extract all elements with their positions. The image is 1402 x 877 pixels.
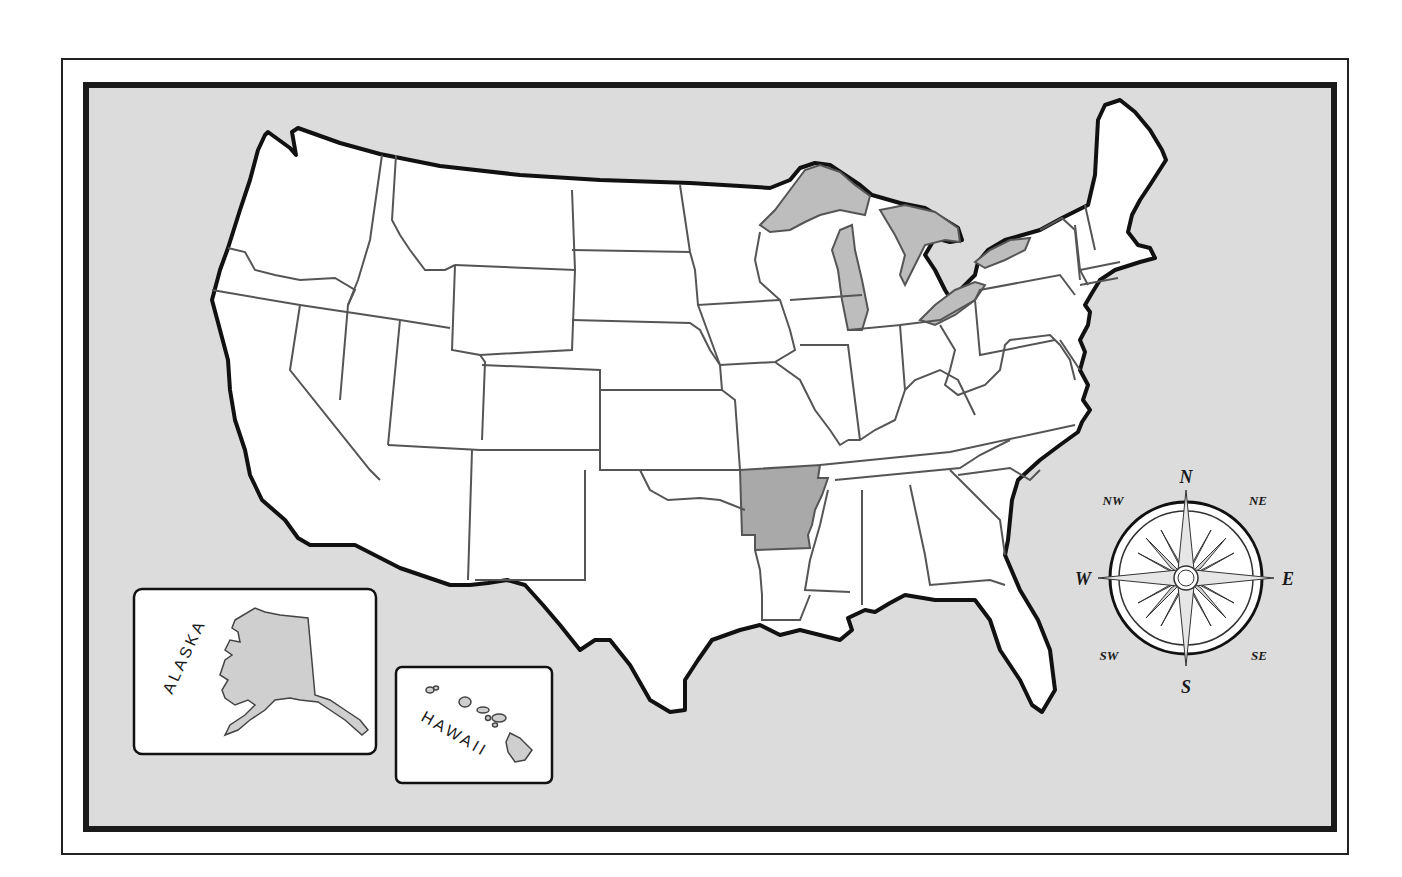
- compass-north: N: [1179, 467, 1194, 487]
- compass-west: W: [1075, 569, 1093, 589]
- compass-south: S: [1181, 677, 1191, 697]
- compass-northwest: NW: [1102, 493, 1125, 508]
- alaska-inset: ALASKA: [134, 589, 376, 754]
- us-map: ALASKA HAWAII: [0, 0, 1402, 877]
- compass-southeast: SE: [1251, 648, 1267, 663]
- compass-rose: N S E W NW NE SW SE: [1075, 467, 1294, 697]
- hawaii-inset: HAWAII: [396, 667, 552, 783]
- compass-southwest: SW: [1100, 648, 1120, 663]
- compass-northeast: NE: [1248, 493, 1267, 508]
- compass-east: E: [1281, 569, 1294, 589]
